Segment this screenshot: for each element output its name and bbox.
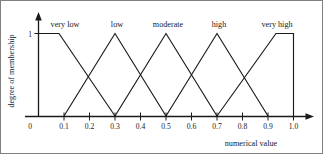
x-axis-arrowhead	[306, 113, 315, 120]
x-tick-label-0-6: 0.6	[187, 122, 197, 131]
y-tick-label-1: 1	[28, 30, 32, 39]
set-label-very-low: very low	[51, 20, 80, 29]
x-tick-label-0-8: 0.8	[238, 122, 248, 131]
x-tick-label-0-5: 0.5	[161, 122, 171, 131]
y-tick-label-0: 0	[28, 122, 32, 131]
curve-high	[166, 34, 268, 117]
y-tick-labels: 1 0	[28, 30, 32, 132]
x-axis-title: numerical value	[225, 139, 278, 148]
membership-curves	[39, 34, 294, 117]
x-tick-label-0-7: 0.7	[212, 122, 222, 131]
y-axis-title: degree of membership	[7, 34, 16, 107]
x-tick-label-0-9: 0.9	[263, 122, 273, 131]
y-axis	[35, 12, 42, 117]
curve-low	[64, 34, 166, 117]
x-tick-label-1-0: 1.0	[289, 122, 299, 131]
set-label-moderate: moderate	[153, 20, 184, 29]
x-tick-labels: 0.1 0.2 0.3 0.4 0.5 0.6 0.7 0.8 0.9 1.0	[59, 122, 298, 131]
membership-function-chart: very low low moderate high very high 1 0…	[1, 1, 323, 154]
set-labels: very low low moderate high very high	[51, 20, 293, 29]
set-label-low: low	[111, 20, 123, 29]
curve-very-high	[217, 34, 294, 117]
x-tick-label-0-1: 0.1	[59, 122, 69, 131]
figure-container: very low low moderate high very high 1 0…	[0, 0, 323, 154]
x-axis	[25, 113, 314, 120]
x-tick-label-0-4: 0.4	[136, 122, 146, 131]
y-axis-arrowhead	[35, 12, 42, 21]
set-label-high: high	[212, 20, 227, 29]
x-tick-label-0-2: 0.2	[85, 122, 95, 131]
x-tick-label-0-3: 0.3	[110, 122, 120, 131]
set-label-very-high: very high	[261, 20, 292, 29]
curve-moderate	[115, 34, 217, 117]
curve-very-low	[39, 34, 116, 117]
